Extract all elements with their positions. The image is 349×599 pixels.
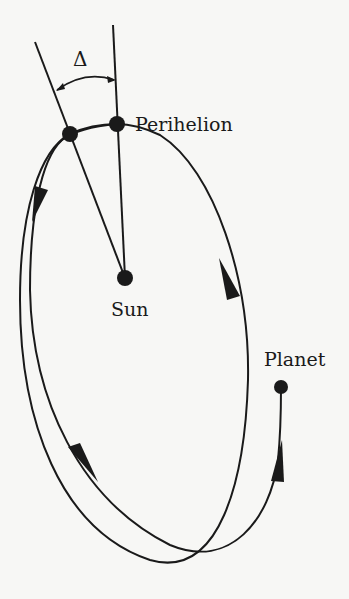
orbit-path-inner xyxy=(30,124,281,552)
apsidal-line-current xyxy=(113,25,125,278)
sun-dot xyxy=(117,270,133,286)
planet-dot xyxy=(274,380,288,394)
angle-label: Δ xyxy=(73,47,87,71)
angle-arrow-left-icon xyxy=(56,83,65,91)
orbit-path-outer xyxy=(20,124,248,563)
perihelion-previous-dot xyxy=(62,126,78,142)
planet-label: Planet xyxy=(264,348,326,370)
perihelion-label: Perihelion xyxy=(135,113,233,135)
sun-label: Sun xyxy=(111,298,149,320)
perihelion-dot xyxy=(109,116,125,132)
orbit-diagram: Δ Perihelion Sun Planet xyxy=(0,0,349,599)
angle-arc xyxy=(57,77,114,90)
orbit-arrow-right-icon xyxy=(219,258,240,300)
orbit-arrow-bottom-right-icon xyxy=(271,440,284,482)
orbit-arrow-bottom-left-icon xyxy=(68,443,98,482)
orbit-arrow-left-icon xyxy=(32,186,48,222)
